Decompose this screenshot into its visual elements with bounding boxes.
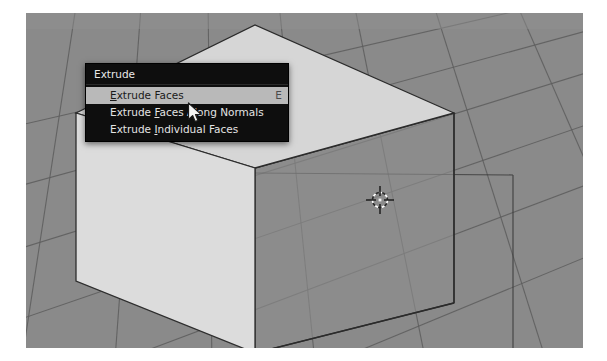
menu-item-accel-prefix: Extrude <box>110 106 154 118</box>
menu-item-accel-letter: E <box>110 89 117 101</box>
horizon-band <box>26 13 583 29</box>
mouse-pointer-icon <box>187 102 205 126</box>
cursor-3d-center <box>379 199 382 202</box>
menu-item-label-rest: xtrude Faces <box>117 89 184 101</box>
menu-item-shortcut: E <box>275 87 282 104</box>
menu-item-label-rest: aces Along Normals <box>159 106 263 118</box>
screenshot-canvas: Extrude Extrude Faces E Extrude Faces Al… <box>0 0 607 361</box>
menu-title: Extrude <box>86 64 288 85</box>
menu-item-accel-prefix: Extrude <box>110 123 154 135</box>
